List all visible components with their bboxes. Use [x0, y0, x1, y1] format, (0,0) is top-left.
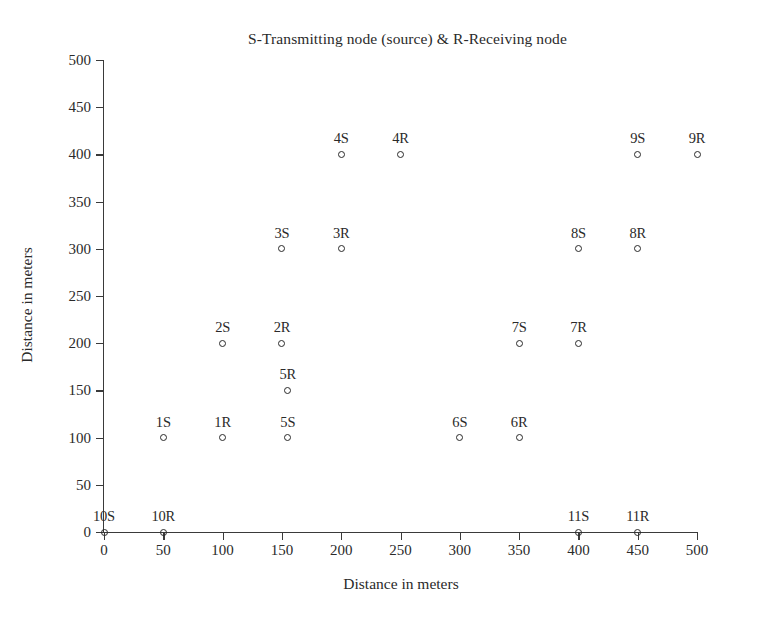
x-tick-mark [401, 533, 402, 540]
data-point [219, 340, 226, 347]
y-axis-line [103, 60, 104, 533]
data-point-label: 11S [568, 508, 589, 525]
y-tick-label: 50 [76, 476, 91, 493]
data-point-label: 8S [571, 225, 586, 242]
y-tick-label: 400 [69, 146, 92, 163]
x-tick-mark [460, 533, 461, 540]
data-point-label: 8R [629, 225, 646, 242]
y-tick-mark [96, 202, 103, 203]
data-point [278, 340, 285, 347]
y-tick-label: 200 [69, 335, 92, 352]
y-tick-label: 450 [69, 99, 92, 116]
data-point [634, 529, 641, 536]
y-tick-mark [96, 107, 103, 108]
x-tick-label: 100 [211, 542, 234, 559]
x-tick-mark [697, 533, 698, 540]
x-axis-title: Distance in meters [104, 575, 698, 593]
data-point [101, 529, 108, 536]
y-tick-mark [96, 60, 103, 61]
data-point [278, 245, 285, 252]
data-point [634, 245, 641, 252]
y-tick-label: 500 [69, 52, 92, 69]
x-tick-label: 250 [389, 542, 412, 559]
y-tick-mark [96, 154, 103, 155]
page-title: S-Transmitting node (source) & R-Receivi… [0, 30, 760, 48]
x-tick-mark [282, 533, 283, 540]
data-point-label: 4R [392, 130, 409, 147]
y-tick-label: 350 [69, 193, 92, 210]
x-tick-label: 0 [100, 542, 108, 559]
y-tick-mark [96, 343, 103, 344]
data-point-label: 7R [570, 319, 587, 336]
y-axis-title: Distance in meters [18, 195, 36, 415]
data-point [284, 434, 291, 441]
data-point-label: 11R [626, 508, 649, 525]
x-tick-mark [223, 533, 224, 540]
y-tick-label: 100 [69, 429, 92, 446]
y-tick-label: 0 [84, 524, 92, 541]
x-tick-label: 50 [156, 542, 171, 559]
data-point [575, 529, 582, 536]
data-point [575, 245, 582, 252]
x-tick-label: 500 [686, 542, 709, 559]
x-tick-mark [519, 533, 520, 540]
data-point [694, 151, 701, 158]
data-point-label: 5S [280, 414, 295, 431]
x-tick-label: 350 [508, 542, 531, 559]
x-tick-label: 200 [330, 542, 353, 559]
data-point-label: 4S [334, 130, 349, 147]
plot-area: 050100150200250300350400450500 050100150… [104, 60, 697, 532]
data-point [516, 340, 523, 347]
x-tick-mark [341, 533, 342, 540]
data-point [397, 151, 404, 158]
y-tick-mark [96, 249, 103, 250]
x-tick-label: 450 [626, 542, 649, 559]
x-tick-label: 300 [449, 542, 472, 559]
data-point-label: 2R [274, 319, 291, 336]
y-tick-label: 250 [69, 288, 92, 305]
data-point [575, 340, 582, 347]
y-tick-mark [96, 390, 103, 391]
data-point-label: 1R [214, 414, 231, 431]
data-point-label: 6S [452, 414, 467, 431]
y-tick-mark [96, 438, 103, 439]
data-point-label: 10S [93, 508, 115, 525]
x-tick-label: 400 [567, 542, 590, 559]
data-point [284, 387, 291, 394]
data-point [338, 151, 345, 158]
data-point-label: 7S [512, 319, 527, 336]
data-point [338, 245, 345, 252]
data-point [160, 529, 167, 536]
y-tick-mark [96, 485, 103, 486]
y-tick-label: 300 [69, 240, 92, 257]
data-point-label: 3S [274, 225, 289, 242]
data-point-label: 1S [156, 414, 171, 431]
y-tick-label: 150 [69, 382, 92, 399]
data-point-label: 9R [689, 130, 706, 147]
data-point-label: 6R [511, 414, 528, 431]
data-point [219, 434, 226, 441]
chart-page: S-Transmitting node (source) & R-Receivi… [0, 0, 760, 618]
data-point [634, 151, 641, 158]
data-point-label: 10R [152, 508, 176, 525]
data-point [160, 434, 167, 441]
data-point-label: 5R [280, 366, 297, 383]
data-point [456, 434, 463, 441]
data-point-label: 2S [215, 319, 230, 336]
y-tick-mark [96, 296, 103, 297]
data-point [516, 434, 523, 441]
data-point-label: 3R [333, 225, 350, 242]
data-point-label: 9S [630, 130, 645, 147]
x-tick-label: 150 [271, 542, 294, 559]
